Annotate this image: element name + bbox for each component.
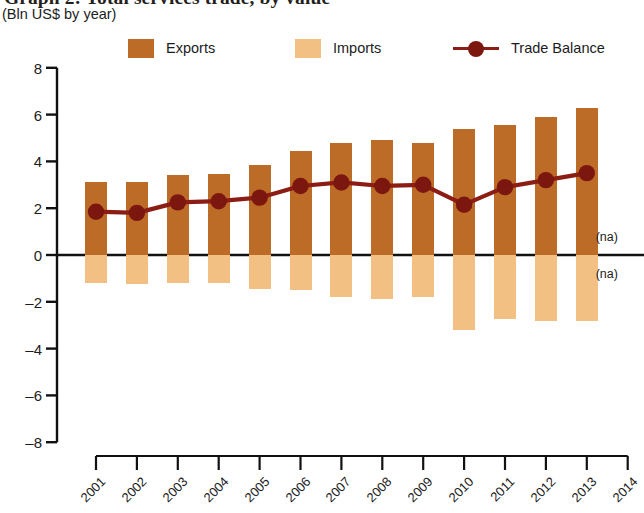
bar-import xyxy=(249,255,271,289)
bar-export xyxy=(535,117,557,255)
y-axis-tick-label: 8 xyxy=(8,59,42,76)
bar-export xyxy=(330,143,352,255)
y-axis-tick-label: 4 xyxy=(8,153,42,170)
bar-export xyxy=(290,151,312,255)
bar-import xyxy=(167,255,189,283)
bar-import xyxy=(576,255,598,321)
bar-export xyxy=(453,129,475,255)
bar-export xyxy=(412,143,434,255)
bar-export xyxy=(208,174,230,255)
bar-import xyxy=(126,255,148,284)
y-axis-tick-label: –6 xyxy=(8,387,42,404)
bar-export xyxy=(576,108,598,255)
bar-import xyxy=(412,255,434,297)
na-label-above: (na) xyxy=(596,230,618,244)
bar-export xyxy=(126,182,148,255)
plot-area: 86420–2–4–6–8200120022003200420052006200… xyxy=(0,0,644,513)
bar-import xyxy=(535,255,557,321)
bar-import xyxy=(330,255,352,297)
bar-export xyxy=(371,140,393,255)
bar-import xyxy=(290,255,312,290)
bar-export xyxy=(494,125,516,255)
na-label-below: (na) xyxy=(596,267,618,281)
y-axis-tick-label: 0 xyxy=(8,247,42,264)
y-axis-tick-label: –4 xyxy=(8,340,42,357)
y-axis-tick-label: –2 xyxy=(8,293,42,310)
y-axis-tick-label: 2 xyxy=(8,200,42,217)
bar-import xyxy=(371,255,393,299)
bar-export xyxy=(85,182,107,255)
bar-import xyxy=(208,255,230,283)
chart-figure: Graph 2: Total services trade, by value … xyxy=(0,0,644,513)
bar-export xyxy=(167,175,189,255)
bar-export xyxy=(249,165,271,255)
y-axis-tick-label: 6 xyxy=(8,106,42,123)
y-axis-tick-label: –8 xyxy=(8,434,42,451)
bar-import xyxy=(453,255,475,330)
bar-import xyxy=(494,255,516,319)
bar-import xyxy=(85,255,107,283)
